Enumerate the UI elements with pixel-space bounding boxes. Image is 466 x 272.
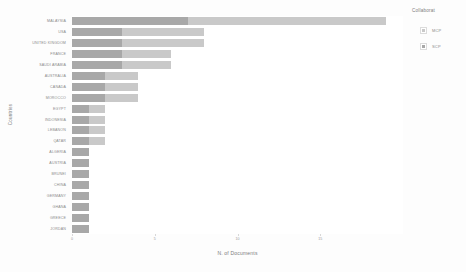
- bar-segment-scp: [72, 61, 122, 69]
- bar-row: [72, 94, 138, 102]
- bar-row: [72, 83, 138, 91]
- y-axis-tick-label: CHINA: [54, 183, 66, 187]
- bar-segment-mcp: [105, 72, 138, 80]
- bar-segment-scp: [72, 39, 122, 47]
- legend-items: MCPSCP: [408, 27, 466, 50]
- bar-row: [72, 17, 386, 25]
- x-axis-tick-label: 15: [318, 237, 322, 241]
- x-axis: 051015: [72, 234, 403, 248]
- legend-item-scp[interactable]: SCP: [420, 43, 466, 50]
- bar-segment-mcp: [89, 105, 106, 113]
- y-axis-labels: MALAYSIAUSAUNITED KINGDOMFRANCESAUDI ARA…: [0, 16, 70, 234]
- bar-row: [72, 50, 171, 58]
- bar-segment-mcp: [89, 116, 106, 124]
- bar-segment-scp: [72, 192, 89, 200]
- y-axis-tick-label: FRANCE: [50, 52, 66, 56]
- y-axis-tick-label: JORDAN: [50, 227, 66, 231]
- y-axis-tick-label: AUSTRIA: [49, 161, 66, 165]
- bar-segment-mcp: [122, 39, 205, 47]
- bar-segment-scp: [72, 72, 105, 80]
- legend-swatch-icon: [420, 27, 427, 34]
- bar-segment-scp: [72, 203, 89, 211]
- bar-row: [72, 116, 105, 124]
- bar-row: [72, 159, 89, 167]
- bar-row: [72, 214, 89, 222]
- y-axis-tick-label: USA: [58, 30, 66, 34]
- bar-segment-mcp: [105, 94, 138, 102]
- bar-segment-scp: [72, 116, 89, 124]
- bar-row: [72, 170, 89, 178]
- bar-segment-scp: [72, 17, 188, 25]
- bar-row: [72, 105, 105, 113]
- y-axis-tick-label: CANADA: [50, 85, 66, 89]
- legend-label: MCP: [432, 28, 442, 33]
- bar-row: [72, 181, 89, 189]
- bar-segment-scp: [72, 50, 122, 58]
- bar-segment-mcp: [122, 50, 172, 58]
- y-axis-tick-label: MOROCCO: [46, 96, 66, 100]
- y-axis-tick-label: QATAR: [53, 139, 66, 143]
- bar-segment-scp: [72, 225, 89, 233]
- bar-segment-mcp: [105, 83, 138, 91]
- legend: Collaborat MCPSCP: [408, 8, 466, 59]
- y-axis-tick-label: LEBANON: [48, 128, 66, 132]
- bar-row: [72, 192, 89, 200]
- bar-row: [72, 61, 171, 69]
- x-axis-tick: [320, 234, 321, 236]
- bar-row: [72, 137, 105, 145]
- bar-segment-scp: [72, 159, 89, 167]
- chart-figure: Countries MALAYSIAUSAUNITED KINGDOMFRANC…: [0, 0, 466, 272]
- legend-label: SCP: [432, 44, 441, 49]
- bar-row: [72, 225, 89, 233]
- y-axis-tick-label: BRUNEI: [52, 172, 66, 176]
- y-axis-tick-label: ALGERIA: [49, 150, 66, 154]
- legend-item-mcp[interactable]: MCP: [420, 27, 466, 34]
- bar-segment-scp: [72, 94, 105, 102]
- x-axis-tick: [72, 234, 73, 236]
- bar-row: [72, 39, 204, 47]
- bar-segment-scp: [72, 83, 105, 91]
- bar-segment-scp: [72, 148, 89, 156]
- bar-segment-scp: [72, 214, 89, 222]
- x-axis-tick: [238, 234, 239, 236]
- bars-group: [72, 16, 403, 234]
- bar-segment-scp: [72, 137, 89, 145]
- bar-segment-mcp: [89, 126, 106, 134]
- y-axis-tick-label: INDONESIA: [45, 118, 66, 122]
- bar-segment-mcp: [122, 28, 205, 36]
- y-axis-tick-label: GERMANY: [47, 194, 66, 198]
- y-axis-tick-label: SAUDI ARABIA: [39, 63, 66, 67]
- plot-panel: [72, 16, 403, 234]
- y-axis-tick-label: UNITED KINGDOM: [32, 41, 66, 45]
- y-axis-tick-label: EGYPT: [53, 107, 66, 111]
- x-axis-tick: [155, 234, 156, 236]
- bar-segment-scp: [72, 181, 89, 189]
- x-axis-tick-label: 0: [71, 237, 73, 241]
- legend-title: Collaborat: [412, 8, 466, 13]
- bar-row: [72, 28, 204, 36]
- bar-segment-scp: [72, 28, 122, 36]
- y-axis-tick-label: AUSTRALIA: [45, 74, 66, 78]
- bar-segment-scp: [72, 105, 89, 113]
- y-axis-tick-label: GREECE: [50, 216, 66, 220]
- bar-segment-scp: [72, 126, 89, 134]
- bar-row: [72, 203, 89, 211]
- y-axis-tick-label: MALAYSIA: [47, 19, 66, 23]
- legend-swatch-icon: [420, 43, 427, 50]
- x-axis-title: N. of Documents: [72, 250, 403, 256]
- bar-segment-mcp: [89, 137, 106, 145]
- bar-segment-mcp: [122, 61, 172, 69]
- bar-row: [72, 72, 138, 80]
- bar-row: [72, 126, 105, 134]
- x-axis-tick-label: 5: [154, 237, 156, 241]
- bar-segment-mcp: [188, 17, 387, 25]
- y-axis-tick-label: GHANA: [52, 205, 66, 209]
- bar-row: [72, 148, 89, 156]
- x-axis-tick-label: 10: [236, 237, 240, 241]
- bar-segment-scp: [72, 170, 89, 178]
